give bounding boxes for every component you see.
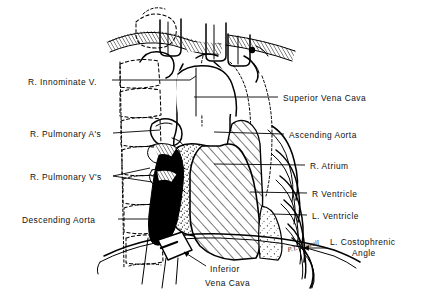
label-r-pulmonary-arteries: R. Pulmonary A's xyxy=(30,129,101,139)
label-inferior-vena-cava-line2: Vena Cava xyxy=(205,278,250,288)
label-r-atrium: R. Atrium xyxy=(310,161,349,171)
anatomy-figure: P.T. Dowell R. Innominate V. R. Pulmonar… xyxy=(0,0,442,295)
label-ascending-aorta: Ascending Aorta xyxy=(289,130,357,140)
label-inferior-vena-cava-line1: Inferior xyxy=(210,264,240,274)
label-r-pulmonary-veins: R. Pulmonary V's xyxy=(30,172,102,182)
anatomy-diagram-svg: P.T. Dowell R. Innominate V. R. Pulmonar… xyxy=(0,0,442,295)
label-superior-vena-cava: Superior Vena Cava xyxy=(283,93,366,103)
label-l-costophrenic-angle-line2: Angle xyxy=(352,248,376,258)
label-r-ventricle: R Ventricle xyxy=(312,189,357,199)
label-l-costophrenic-angle-line1: L. Costophrenic xyxy=(330,237,395,247)
label-descending-aorta: Descending Aorta xyxy=(22,215,95,225)
label-r-innominate-vein: R. Innominate V. xyxy=(28,77,97,87)
label-l-ventricle: L. Ventricle xyxy=(312,211,359,221)
